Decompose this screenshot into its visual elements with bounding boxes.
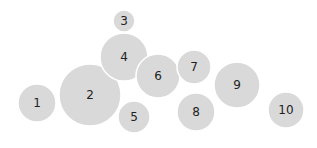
bubble-8: 8	[177, 93, 215, 131]
bubble-10: 10	[268, 92, 304, 128]
bubble-5: 5	[118, 101, 150, 133]
bubble-label: 3	[120, 14, 128, 28]
bubble-diagram: 12345678910	[0, 0, 317, 148]
bubble-label: 6	[154, 69, 162, 83]
bubble-label: 7	[190, 60, 198, 74]
bubble-label: 2	[86, 88, 94, 102]
bubble-label: 1	[33, 96, 41, 110]
bubble-1: 1	[18, 84, 56, 122]
bubble-label: 8	[192, 105, 200, 119]
bubble-label: 5	[130, 110, 138, 124]
bubble-label: 9	[233, 78, 241, 92]
bubble-3: 3	[113, 10, 135, 32]
bubble-label: 10	[278, 103, 293, 117]
bubble-6: 6	[136, 54, 180, 98]
bubble-9: 9	[214, 62, 260, 108]
bubble-label: 4	[120, 50, 128, 64]
bubble-7: 7	[177, 50, 211, 84]
